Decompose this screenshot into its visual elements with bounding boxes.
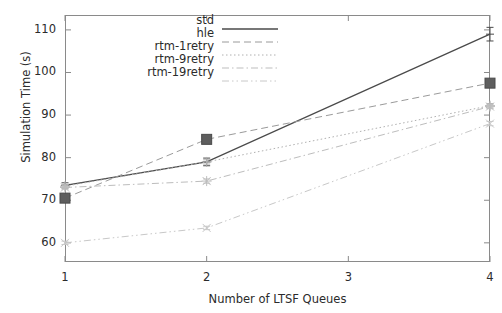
chart-figure: 60708090100110 1234 Simulation Time (s) … — [0, 0, 502, 313]
x-axis-title: Number of LTSF Queues — [65, 292, 490, 306]
y-tick-label: 110 — [22, 22, 56, 36]
legend-line-sample — [220, 20, 280, 21]
x-tick-label: 4 — [475, 270, 502, 284]
legend-line-sample — [220, 59, 280, 60]
series-rtm-19retry — [61, 120, 494, 247]
y-tick-label: 70 — [22, 192, 56, 206]
legend-label: rtm-19retry — [110, 66, 220, 79]
y-tick-label: 60 — [22, 235, 56, 249]
legend-line-sample — [220, 46, 280, 47]
legend-line-sample — [220, 72, 280, 73]
y-axis-title: Simulation Time (s) — [19, 37, 33, 177]
x-tick-label: 2 — [192, 270, 222, 284]
x-tick-label: 1 — [50, 270, 80, 284]
chart-legend: stdhlertm-1retryrtm-9retryrtm-19retry — [110, 14, 280, 79]
x-tick-label: 3 — [333, 270, 363, 284]
legend-entry-std: std — [110, 14, 280, 27]
legend-line-sample — [220, 33, 280, 34]
series-rtm-9retry — [60, 102, 495, 193]
